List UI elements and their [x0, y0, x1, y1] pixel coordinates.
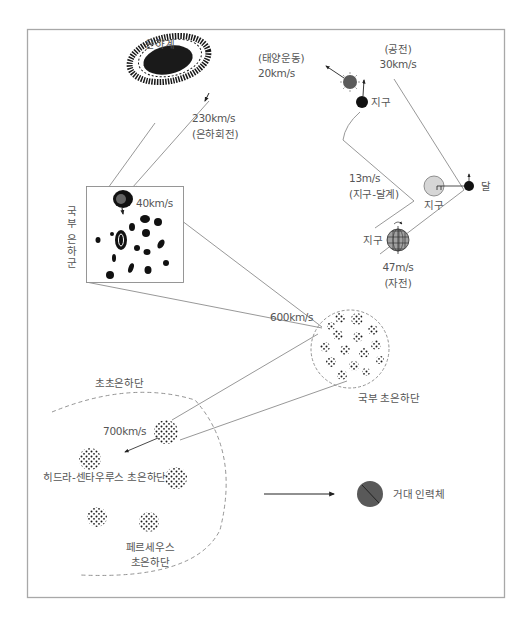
- earth-moon-earth-label: 지구: [424, 199, 443, 212]
- earth-moon-speed: 13m/s: [349, 172, 380, 185]
- solar-motion-arrow: [326, 66, 344, 78]
- hydra-centaurus-label: 히드라-센타우루스 초은하단: [43, 471, 166, 484]
- local-supercluster-clusters: [320, 313, 384, 380]
- super-supercluster-label: 초초은하단: [95, 377, 144, 390]
- revolution-speed: 30km/s: [380, 58, 417, 71]
- moving-cluster-icon: [154, 420, 178, 444]
- perseus-cluster-icon: [139, 512, 159, 532]
- moon-label: 달: [481, 180, 491, 193]
- revolution-arrow: [363, 80, 364, 96]
- solar-motion-name: (태양운동): [258, 52, 304, 65]
- revolution-name: (공전): [385, 43, 412, 56]
- perseus-label-line2: 초은하단: [131, 556, 170, 569]
- earth-moon-name: (지구-달계): [349, 188, 399, 201]
- cluster-icon: [165, 467, 187, 489]
- great-attractor-label: 거대 인력체: [393, 488, 445, 501]
- earth-icon: [356, 96, 368, 108]
- galaxy-rotation-arrow: [205, 93, 209, 101]
- globe-icon: [387, 222, 409, 254]
- rotation-speed: 47m/s: [382, 261, 413, 274]
- local-supercluster-label: 국부 초은하단: [358, 392, 419, 405]
- galaxy-rotation-name: (은하회전): [192, 128, 238, 141]
- perseus-label-line1: 페르세우스: [126, 541, 175, 554]
- super-supercluster-speed: 700km/s: [103, 425, 146, 438]
- solar-motion-speed: 20km/s: [258, 67, 295, 80]
- globe-earth-label: 지구: [363, 234, 382, 247]
- supercluster-motion-arrow: [125, 438, 158, 452]
- hydra-centaurus-cluster-icon: [79, 448, 101, 470]
- galaxy-rotation-speed: 230km/s: [192, 112, 235, 125]
- rotation-name: (자전): [385, 277, 412, 290]
- cluster-icon: [87, 507, 107, 527]
- great-attractor-icon: [357, 481, 383, 507]
- sun-icon: [340, 72, 360, 92]
- local-group-label: 국부 은하군: [64, 206, 79, 270]
- local-supercluster-speed: 600km/s: [270, 311, 313, 324]
- earth-label: 지구: [371, 96, 390, 109]
- local-group-speed: 40km/s: [136, 197, 173, 210]
- moon-icon: [464, 181, 474, 191]
- cosmic-motion-diagram: 은하계 230km/s (은하회전) (태양운동) 20km/s (공전) 30…: [0, 0, 532, 626]
- galaxy-label: 은하계: [145, 38, 174, 51]
